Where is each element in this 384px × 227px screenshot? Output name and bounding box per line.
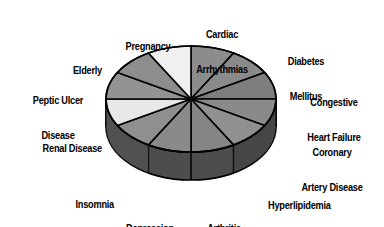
label-hyperlipidemia: Hyperlipidemia [268, 177, 367, 227]
label-insomnia: Insomnia [51, 176, 114, 227]
label-line-1: Diabetes [273, 56, 339, 68]
label-line-1: Coronary [286, 147, 378, 159]
label-line-1: Elderly [36, 65, 102, 77]
label-line-1: Insomnia [51, 199, 114, 211]
label-line-1: Cardiac [183, 29, 260, 41]
pie-chart-figure: Cardiac Arrhythmias Diabetes Mellitus Co… [0, 0, 384, 227]
label-line-1: Depression [115, 223, 185, 227]
label-arthritis: Arthritis [191, 200, 257, 227]
label-line-2: Disease [18, 130, 99, 142]
label-pregnancy: Pregnancy [109, 18, 186, 76]
label-line-2: Arrhythmias [183, 64, 260, 76]
label-cardiac-arrhythmias: Cardiac Arrhythmias [183, 6, 260, 98]
label-elderly: Elderly [36, 42, 102, 100]
label-line-1: Hyperlipidemia [268, 200, 367, 212]
label-line-1: Pregnancy [109, 41, 186, 53]
label-line-1: Congestive [290, 97, 378, 109]
label-depression: Depression [115, 200, 185, 227]
label-line-1: Arthritis [191, 223, 257, 227]
